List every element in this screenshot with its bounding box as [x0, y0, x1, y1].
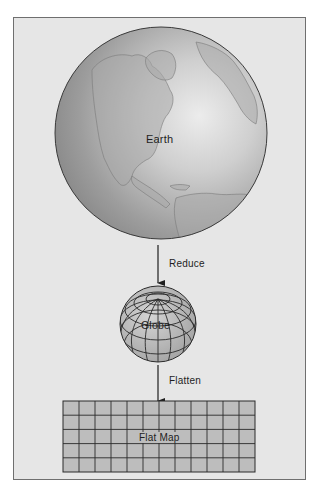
flatten-label: Flatten	[169, 375, 201, 386]
globe-label: Globe	[141, 319, 170, 331]
flat-map-label: Flat Map	[137, 432, 182, 443]
diagram-canvas	[0, 0, 318, 498]
reduce-label: Reduce	[169, 258, 205, 269]
earth-label: Earth	[146, 133, 173, 145]
